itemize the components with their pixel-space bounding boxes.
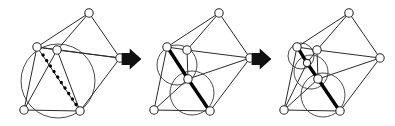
graph-edge — [284, 63, 307, 110]
panel-panel-2 — [150, 9, 254, 115]
arrow-1 — [122, 49, 142, 70]
graph-node-n-mid-small — [303, 59, 310, 66]
graph-edge — [297, 13, 349, 47]
figure-container — [0, 0, 395, 126]
graph-edge — [349, 13, 380, 58]
graph-node-n-top — [85, 9, 93, 17]
graph-edge — [317, 50, 380, 58]
graph-edge — [188, 58, 250, 79]
graph-node-n-upper-left — [33, 43, 41, 51]
graph-node-n-lower-left — [20, 106, 28, 114]
graph-node-n-lower-mid — [336, 107, 344, 115]
graph-edge — [284, 110, 340, 111]
graph-edge — [219, 13, 250, 58]
graph-node-n-top — [345, 9, 353, 17]
graph-node-n-upper-mid — [313, 46, 321, 54]
graph-node-n-lower-mid — [76, 107, 84, 115]
graph-edge — [167, 13, 219, 47]
graph-node-n-lower-mid — [206, 107, 214, 115]
graph-edge — [210, 58, 250, 111]
graph-node-n-top — [215, 9, 223, 17]
graph-node-n-upper-left — [293, 43, 301, 51]
panel-panel-3 — [280, 9, 384, 117]
graph-edge — [37, 47, 120, 58]
panel-panel-1 — [20, 9, 124, 118]
graph-node-n-lower-left — [150, 106, 158, 114]
graph-edge — [57, 50, 80, 111]
graph-edge — [340, 58, 380, 111]
graph-edge — [187, 13, 219, 50]
graph-edge — [89, 13, 120, 58]
graph-node-n-upper-mid — [53, 46, 61, 54]
graph-edge — [187, 50, 250, 58]
graph-node-n-lower-left — [280, 106, 288, 114]
graph-edge — [24, 50, 57, 110]
highlight-flipped-edge-lower — [188, 79, 209, 110]
graph-node-n-center — [314, 75, 322, 83]
graph-edge — [317, 13, 349, 50]
arrow-2 — [252, 49, 272, 70]
graph-edge — [57, 13, 89, 50]
graph-node-n-right — [376, 54, 384, 62]
graph-edge — [80, 58, 120, 111]
graph-edge — [24, 110, 80, 111]
graph-node-n-upper-left — [163, 43, 171, 51]
edge-flip-diagram — [0, 0, 395, 126]
circumcircle-big-circumcircle — [21, 44, 95, 118]
graph-node-n-upper-mid — [183, 46, 191, 54]
graph-edge — [37, 13, 89, 47]
graph-node-n-center — [184, 75, 192, 83]
highlight-flipped-edge-bottom — [318, 79, 339, 110]
graph-edge — [154, 110, 210, 111]
